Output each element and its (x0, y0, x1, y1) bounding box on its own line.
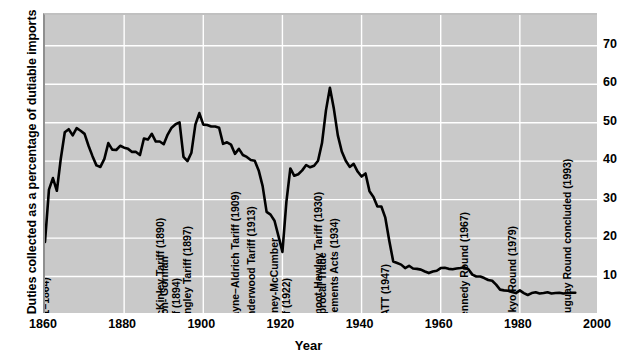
annotation-line: Fordney-McCumber (269, 238, 281, 313)
annotation-wilson-gorman: Wilson- GormanTariff (1894) (158, 256, 181, 313)
annotation-line: Uruguay Round concluded (1993) (562, 159, 574, 313)
annotation-line: Kennedy Round (1967) (459, 212, 471, 313)
annotation-underwood: Underwood Tariff (1913) (245, 206, 257, 313)
x-axis-title: Year (0, 338, 617, 353)
annotation-line: Underwood Tariff (1913) (245, 206, 257, 313)
plot-area: Morrill and War Tariffs(1861–1864)McKinl… (43, 13, 597, 313)
annotation-uruguay: Uruguay Round concluded (1993) (562, 159, 574, 313)
x-axis-tick-2000: 2000 (567, 317, 622, 331)
x-axis-tick-1940: 1940 (330, 317, 390, 331)
annotation-line: GATT (1947) (380, 264, 392, 313)
annotation-kennedy: Kennedy Round (1967) (459, 212, 471, 313)
x-axis-tick-1860: 1860 (13, 317, 73, 331)
annotation-line: Tariff (1894) (170, 256, 182, 313)
annotation-gatt: GATT (1947) (380, 264, 392, 313)
annotation-payne-aldrich: Payne–Aldrich Tariff (1909) (229, 191, 241, 313)
x-axis-tick-1980: 1980 (488, 317, 548, 331)
annotation-reciprocal: Reciprocal TradeAgreements Acts (1934) (317, 218, 340, 313)
y-axis-title: Duties collected as a percentage of duti… (25, 2, 39, 322)
annotation-tokyo: Tokyo Round (1979) (506, 226, 518, 313)
annotation-fordney: Fordney-McCumberTariff (1922) (269, 238, 292, 313)
x-axis-tick-1880: 1880 (92, 317, 152, 331)
x-axis-tick-1920: 1920 (250, 317, 310, 331)
annotation-line: Reciprocal Trade (317, 218, 329, 313)
annotation-line: Tokyo Round (1979) (506, 226, 518, 313)
annotation-line: (1861–1864) (43, 227, 51, 313)
annotation-line: Agreements Acts (1934) (328, 218, 340, 313)
annotation-line: Payne–Aldrich Tariff (1909) (229, 191, 241, 313)
annotation-dingley: Dingley Tariff (1897) (182, 226, 194, 313)
annotation-morrill: Morrill and War Tariffs(1861–1864) (43, 227, 51, 313)
x-axis-tick-1960: 1960 (409, 317, 469, 331)
annotation-line: Dingley Tariff (1897) (182, 226, 194, 313)
annotation-line: Tariff (1922) (281, 238, 293, 313)
annotation-line: Wilson- Gorman (158, 256, 170, 313)
x-axis-tick-1900: 1900 (171, 317, 231, 331)
